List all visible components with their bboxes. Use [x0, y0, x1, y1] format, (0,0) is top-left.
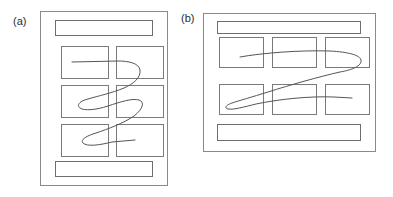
- panel-b-cell-4: [220, 85, 264, 115]
- panel-b-cell-1: [220, 38, 264, 68]
- panel-b-top-bar: [218, 22, 361, 34]
- panel-a-group: [41, 12, 168, 186]
- panel-b-bottom-bar: [218, 125, 361, 141]
- panel-b-group: [204, 14, 376, 152]
- panel-a-top-bar: [56, 21, 153, 36]
- panel-b-cell-6: [326, 85, 370, 115]
- panel-a-cell-5: [62, 125, 109, 157]
- panel-a-cell-3: [62, 86, 109, 118]
- figure-canvas: (a) (b) 1 2 3 4 5 6 1 2 3 4 5 6: [0, 0, 393, 197]
- diagram-svg: [0, 0, 393, 197]
- panel-a-cell-1: [62, 47, 109, 79]
- panel-a-bottom-bar: [56, 162, 153, 177]
